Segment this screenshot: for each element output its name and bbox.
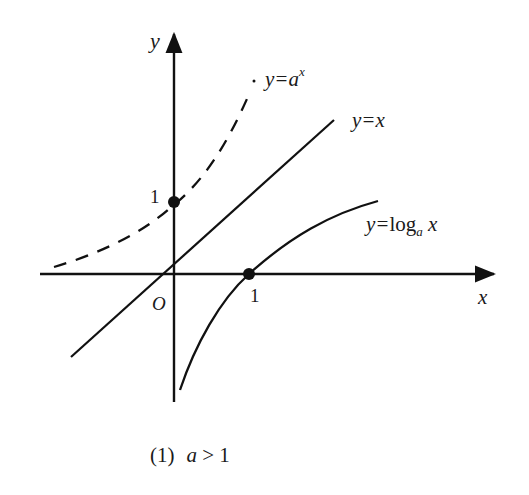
exp-intercept-point [168, 196, 180, 208]
figure-caption: (1)a > 1 [150, 443, 230, 467]
x-axis-label: x [477, 285, 488, 309]
logarithm-curve [180, 201, 378, 390]
log-intercept-point [243, 268, 255, 280]
logarithm-label: y=loga x [364, 212, 438, 239]
y-tick-label: 1 [150, 186, 160, 207]
exponential-curve [54, 80, 256, 268]
identity-label: y=x [350, 108, 385, 132]
x-tick-label: 1 [250, 285, 260, 306]
function-graph: y x O 1 1 y=ax y=x y=loga x (1)a > 1 [0, 0, 529, 495]
y-axis-label: y [148, 28, 160, 53]
exponential-label: y=ax [263, 64, 305, 91]
origin-label: O [152, 293, 166, 314]
